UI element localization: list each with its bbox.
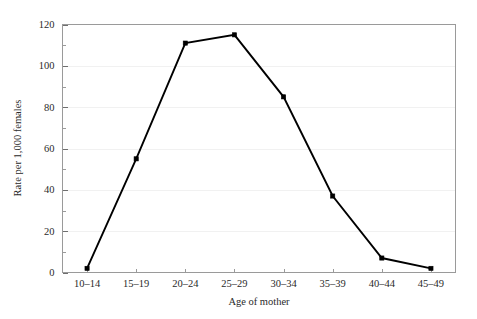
x-axis-tick-label: 40–44	[369, 278, 396, 289]
data-point-marker	[134, 157, 138, 161]
y-axis-tick-label: 60	[44, 143, 55, 154]
data-point-marker	[281, 95, 285, 99]
data-point-marker	[85, 266, 89, 270]
y-axis-tick-label: 40	[44, 184, 55, 195]
x-axis-tick-label: 20–24	[172, 278, 199, 289]
data-point-marker	[183, 41, 187, 45]
x-axis-tick-label: 35–39	[320, 278, 346, 289]
x-axis-tick-label: 15–19	[123, 278, 149, 289]
y-axis-tick-label: 120	[39, 19, 55, 30]
y-axis-tick-label: 20	[44, 226, 55, 237]
chart-background	[0, 0, 477, 319]
chart-container: 020406080100120 10–1415–1920–2425–2930–3…	[0, 0, 477, 319]
x-axis-title: Age of mother	[228, 296, 290, 307]
y-axis-tick-label: 0	[49, 267, 54, 278]
x-axis-tick-label: 25–29	[221, 278, 247, 289]
data-point-marker	[429, 266, 433, 270]
line-chart: 020406080100120 10–1415–1920–2425–2930–3…	[0, 0, 477, 319]
x-axis-tick-label: 30–34	[270, 278, 297, 289]
y-axis-tick-label: 100	[39, 60, 55, 71]
x-axis-tick-label: 45–49	[418, 278, 444, 289]
data-point-marker	[232, 33, 236, 37]
data-point-marker	[331, 194, 335, 198]
x-axis-tick-label: 10–14	[74, 278, 101, 289]
data-point-marker	[380, 256, 384, 260]
y-axis-title: Rate per 1,000 females	[12, 100, 23, 197]
y-axis-tick-label: 80	[44, 102, 55, 113]
